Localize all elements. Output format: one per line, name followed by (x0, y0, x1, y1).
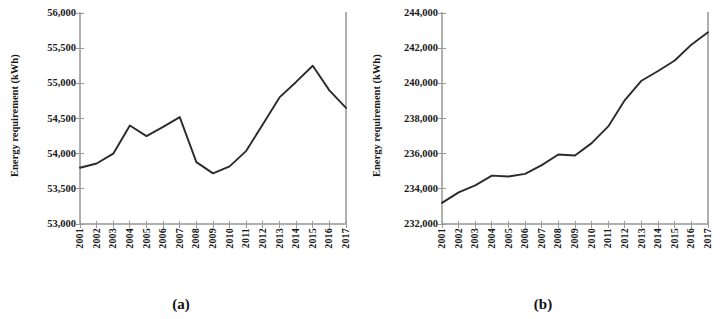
x-tick-label: 2008 (191, 228, 201, 249)
x-tick-label: 2011 (603, 228, 613, 248)
chart-svg-b (362, 0, 724, 240)
x-tick-label: 2016 (324, 228, 334, 249)
x-tick-label: 2005 (142, 228, 152, 249)
x-tick-label: 2016 (686, 228, 696, 249)
x-tick-label: 2015 (670, 228, 680, 249)
x-tick-label: 2006 (520, 228, 530, 249)
x-tick-label: 2014 (653, 228, 663, 249)
x-tick-label: 2012 (258, 228, 268, 249)
x-tick-label: 2004 (487, 228, 497, 249)
x-tick-label: 2013 (275, 228, 285, 249)
plot-area-a (0, 0, 362, 240)
x-axis-tick-labels-b: 2001200220032004200520062007200820092010… (362, 228, 724, 288)
x-tick-label: 2005 (504, 228, 514, 249)
x-tick-label: 2003 (470, 228, 480, 249)
x-axis-tick-labels-a: 2001200220032004200520062007200820092010… (0, 228, 362, 288)
chart-panel-a: Energy requirement (kWh) 53,00053,50054,… (0, 0, 362, 319)
x-tick-label: 2009 (570, 228, 580, 249)
x-tick-label: 2006 (158, 228, 168, 249)
x-tick-label: 2004 (125, 228, 135, 249)
x-tick-label: 2001 (437, 228, 447, 249)
x-tick-label: 2017 (341, 228, 351, 249)
x-tick-label: 2009 (208, 228, 218, 249)
x-tick-label: 2010 (225, 228, 235, 249)
panel-caption-b: (b) (362, 296, 724, 313)
x-tick-label: 2002 (92, 228, 102, 249)
x-tick-label: 2011 (241, 228, 251, 248)
x-tick-label: 2008 (553, 228, 563, 249)
figure-container: Energy requirement (kWh) 53,00053,50054,… (0, 0, 724, 319)
chart-panel-b: Energy requirement (kWh) 232,000234,0002… (362, 0, 724, 319)
data-series-line (80, 66, 346, 174)
x-tick-label: 2003 (108, 228, 118, 249)
x-tick-label: 2002 (454, 228, 464, 249)
x-tick-label: 2001 (75, 228, 85, 249)
x-tick-label: 2007 (175, 228, 185, 249)
x-tick-label: 2010 (587, 228, 597, 249)
x-tick-label: 2015 (308, 228, 318, 249)
x-tick-label: 2012 (620, 228, 630, 249)
panel-caption-a: (a) (0, 296, 362, 313)
x-tick-label: 2007 (537, 228, 547, 249)
plot-area-b (362, 0, 724, 240)
x-tick-label: 2017 (703, 228, 713, 249)
x-tick-label: 2013 (637, 228, 647, 249)
x-tick-label: 2014 (291, 228, 301, 249)
data-series-line (442, 32, 708, 203)
chart-svg-a (0, 0, 362, 240)
